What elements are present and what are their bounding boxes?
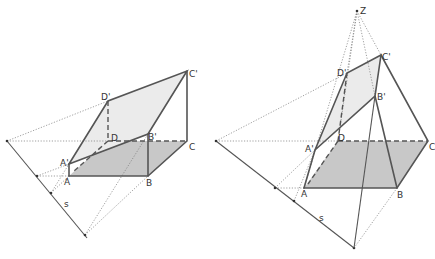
label-a-prime: A' xyxy=(60,158,69,168)
label-b: B xyxy=(146,178,152,188)
label-s: s xyxy=(64,199,69,209)
label-b-prime: B' xyxy=(377,92,386,102)
label-b-prime: B' xyxy=(148,132,157,142)
label-z: Z xyxy=(360,6,366,16)
label-c-prime: C' xyxy=(189,69,198,79)
label-a: A xyxy=(301,189,308,199)
diagram-canvas: A B C D A' B' C' D' s xyxy=(0,0,435,259)
label-d: D xyxy=(111,133,118,143)
left-figure: A B C D A' B' C' D' s xyxy=(6,69,198,238)
label-c-prime: C' xyxy=(382,52,391,62)
label-a-prime: A' xyxy=(305,144,314,154)
label-d-prime: D' xyxy=(101,92,110,102)
label-a: A xyxy=(64,177,71,187)
label-s: s xyxy=(319,213,324,223)
label-b: B xyxy=(397,190,403,200)
right-figure: A B C D A' B' C' D' s Z xyxy=(215,6,435,249)
label-c: C xyxy=(429,142,435,152)
right-section-quadrilateral xyxy=(315,55,381,150)
label-d: D xyxy=(338,133,345,143)
label-d-prime: D' xyxy=(337,68,346,78)
label-c: C xyxy=(189,142,195,152)
